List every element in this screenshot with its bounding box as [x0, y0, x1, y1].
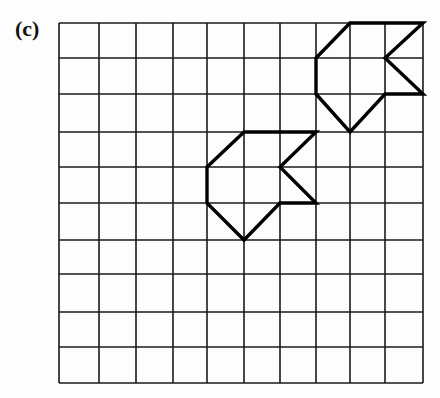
- grid-diagram: [0, 0, 440, 398]
- grid-lines: [59, 23, 423, 383]
- lower-shape: [207, 132, 316, 240]
- upper-shape: [316, 23, 423, 132]
